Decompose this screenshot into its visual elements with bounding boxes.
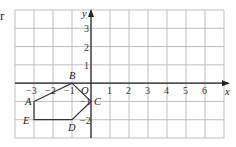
x-tick-label: 2: [126, 85, 131, 96]
x-tick-label: −3: [26, 85, 37, 96]
y-tick-label: −1: [80, 96, 91, 107]
y-tick-label: −2: [80, 115, 91, 126]
vertex-label-a: A: [24, 96, 32, 107]
x-tick-label: −2: [45, 85, 56, 96]
x-tick-label: 1: [107, 85, 112, 96]
x-tick-label: 4: [164, 85, 169, 96]
y-tick-label: 2: [84, 42, 89, 53]
x-axis-label: x: [224, 86, 230, 97]
x-tick-label: 5: [183, 85, 188, 96]
vertex-label-d: D: [67, 122, 76, 133]
y-tick-label: 3: [84, 23, 89, 34]
vertex-label-c: C: [94, 96, 102, 107]
vertex-label-b: B: [69, 70, 76, 81]
y-tick-label: 1: [84, 60, 89, 71]
coordinate-grid: xy−3−2−1123456321−1−2OABCDE: [0, 0, 236, 147]
origin-label: O: [81, 85, 89, 96]
vertex-label-e: E: [22, 115, 30, 126]
x-tick-label: 3: [145, 85, 150, 96]
x-tick-label: 6: [202, 85, 207, 96]
y-axis-label: y: [81, 8, 87, 19]
